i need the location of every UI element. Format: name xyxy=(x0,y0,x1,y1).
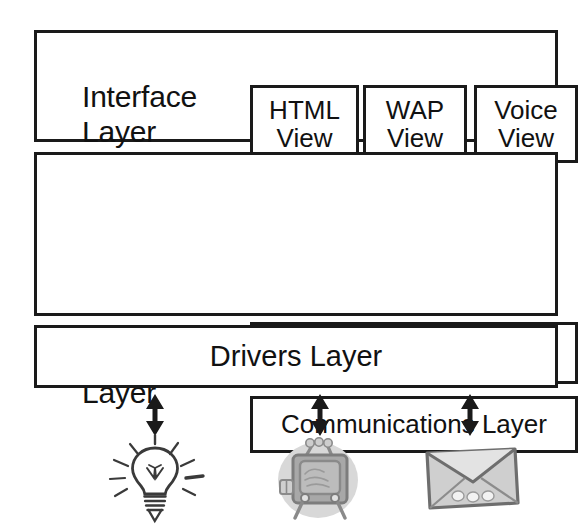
logical-layer-box: Logical Layer Services Layer Communicati… xyxy=(34,152,558,316)
drivers-layer-box: Drivers Layer xyxy=(34,325,558,388)
television-icon xyxy=(266,430,374,526)
drivers-layer-caption: Drivers Layer xyxy=(37,328,555,385)
architecture-diagram: Interface Layer HTML View WAP View Voice… xyxy=(0,0,586,530)
envelope-icon xyxy=(418,442,524,514)
interface-layer-box: Interface Layer HTML View WAP View Voice… xyxy=(34,30,558,142)
interface-layer-caption: Interface Layer xyxy=(82,80,197,150)
lightbulb-icon xyxy=(102,432,208,524)
double-headed-vertical-arrow-icon xyxy=(455,392,485,438)
